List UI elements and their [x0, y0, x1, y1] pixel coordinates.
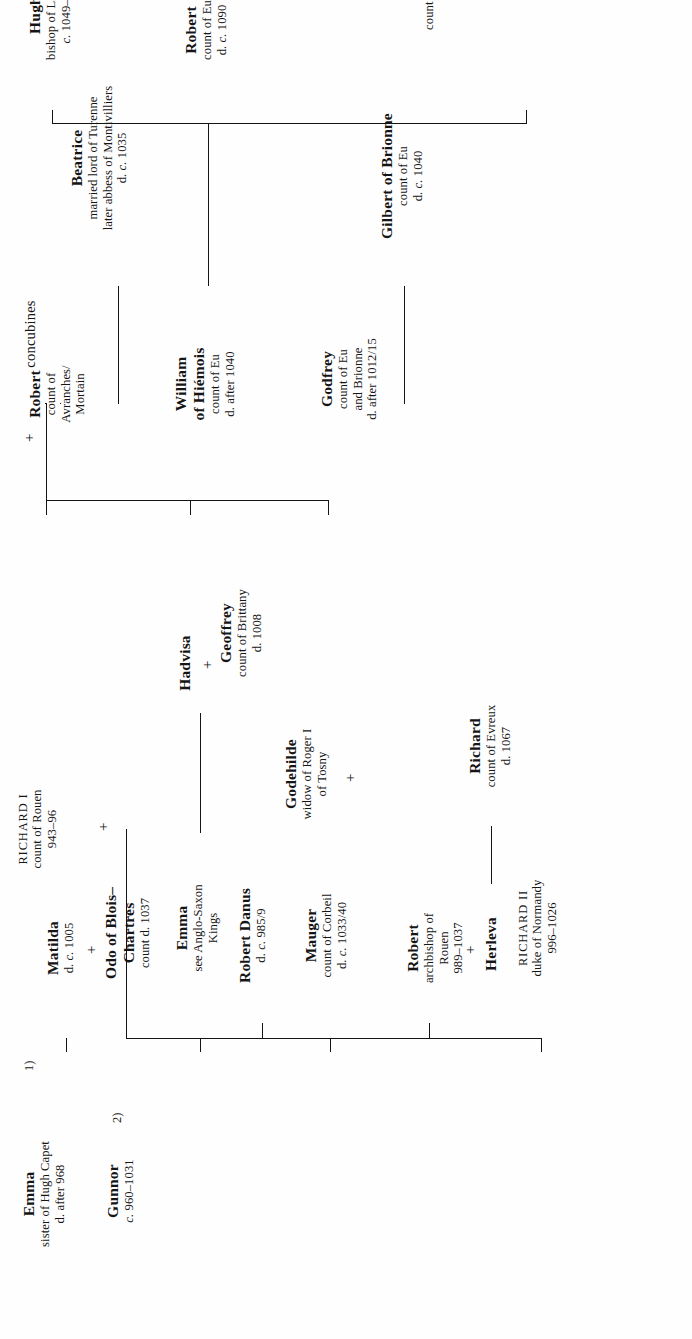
node-richard-ii: RICHARD II duke of Normandy 996–1026 [516, 833, 560, 1023]
node-detail-line: Rouen [437, 873, 452, 1023]
node-name: Robert [404, 873, 422, 1023]
node-detail-line: see Anglo-Saxon [191, 833, 206, 1023]
node-godfrey: Godfrey count of Eu and Brionne d. after… [318, 274, 380, 484]
node-name: Herleva [482, 889, 500, 999]
node-detail-line: married lord of Turenne [86, 30, 101, 286]
node-detail-line: c. 960–1031 [122, 1131, 137, 1251]
node-detail-line: d. after 1012/15 [365, 274, 380, 484]
node-detail-line: count of Eu [336, 274, 351, 484]
node-detail-line: d. c. 985/9 [254, 848, 269, 1023]
node-detail-line: Avranches/ [59, 304, 74, 484]
node-name: Emma [173, 833, 191, 1023]
connector-godfrey-gilbert [404, 286, 405, 404]
node-detail-line: sister of Hugh Capet [38, 1089, 53, 1299]
connector-child-stub-robert-danus [262, 1023, 263, 1039]
connector-beatrice [118, 286, 119, 404]
node-detail-line: d. after 968 [53, 1089, 68, 1299]
node-detail-line: count of Soissons [437, 0, 452, 110]
node-detail-line: count of [44, 304, 59, 484]
node-name: Gunnor [104, 1131, 122, 1251]
node-detail-line: count of Evreux [484, 666, 499, 826]
node-detail-line: count d. 1037 [138, 843, 153, 1023]
connector-child-stub-william-hiemois [190, 500, 191, 515]
connector-sibling-spine-william-issue [52, 123, 526, 124]
node-name-cont: of Hiémois [190, 284, 208, 484]
node-godehilde: Godehilde widow of Roger I of Tosny [282, 679, 329, 869]
union-marker-hadvisa-geoffrey: + [200, 661, 215, 669]
union-order-2: 2) [110, 1113, 125, 1123]
node-detail-line: Mortain [73, 304, 88, 484]
node-detail-line: c. 1057–c. 1076 [451, 0, 466, 110]
node-name: Gilbert of Brionne [378, 66, 396, 286]
connector-child-stub-emma [200, 1038, 201, 1052]
node-detail-line: d. 1067 [499, 666, 514, 826]
node-mauger: Mauger count of Corbeil d. c. 1033/40 [302, 848, 349, 1023]
node-richard-evreux: Richard count of Evreux d. 1067 [466, 666, 513, 826]
node-detail-line: d. c. 1035 [115, 30, 130, 286]
node-name: Robert [182, 0, 200, 110]
node-name: Godehilde [282, 679, 300, 869]
connector-child-stub-matilda [66, 1038, 67, 1052]
node-detail-line: d. c. 1005 [62, 873, 77, 1023]
connector-emma-row [200, 713, 201, 833]
node-detail-line: count of Corbeil [320, 848, 335, 1023]
rotated-chart-wrapper: Emma sister of Hugh Capet d. after 968 1… [0, 0, 692, 1339]
connector-child-stub-mauger [330, 1038, 331, 1052]
node-detail-line: d. c. 1090 [215, 0, 230, 110]
node-name: Emma [20, 1089, 38, 1299]
connector-child-stub-richard2 [541, 1038, 542, 1052]
node-detail-line: count of Eu [208, 284, 223, 484]
connector-child-stub-william-busac [526, 110, 527, 124]
node-detail-line: of Tosny [315, 679, 330, 869]
node-detail-line: d. after 1040 [223, 284, 238, 484]
node-name: William [172, 284, 190, 484]
node-detail-line: count of Eu [200, 0, 215, 110]
node-name: William Busac [404, 0, 422, 110]
union-marker-richard1-gunnor: + [96, 823, 111, 831]
node-gunnor: Gunnor c. 960–1031 [104, 1131, 137, 1251]
node-detail-line: d. c. 1033/40 [335, 848, 350, 1023]
node-name: Robert Danus [236, 848, 254, 1023]
node-detail-line: count of Rouen [30, 749, 45, 909]
connector-child-stub-hugh [52, 110, 53, 124]
node-herleva: Herleva [482, 889, 500, 999]
node-robert-avranches: Robert count of Avranches/ Mortain [26, 304, 88, 484]
node-hadvisa: Hadvisa [176, 613, 194, 713]
union-marker-godehilde: + [343, 774, 358, 782]
node-detail-line: archbishop of [422, 873, 437, 1023]
node-odo: Odo of Blois– Chartres count d. 1037 [102, 843, 153, 1023]
node-hugh: Hugh bishop of Lisieux c. 1049–77 [26, 0, 73, 110]
node-detail-line: d. 1008 [250, 553, 265, 713]
node-emma-anglosaxon: Emma see Anglo-Saxon Kings [173, 833, 220, 1023]
node-name: Hadvisa [176, 613, 194, 713]
union-marker-matilda-odo: + [84, 946, 99, 954]
node-name: Godfrey [318, 274, 336, 484]
node-name: Robert [26, 304, 44, 484]
node-detail-line: later abbess of Montivilliers [101, 30, 116, 286]
node-name: Odo of Blois– [102, 843, 120, 1023]
node-robert-archbishop: Robert archbishop of Rouen 989–1037 [404, 873, 466, 1023]
connector-herleva-richard-evreux [491, 826, 492, 884]
node-detail-line: bishop of Lisieux [44, 0, 59, 110]
node-name: Hugh [26, 0, 44, 110]
node-name: RICHARD II [516, 833, 530, 1023]
node-name: Matilda [44, 873, 62, 1023]
node-detail-line: Kings [206, 833, 221, 1023]
genealogy-chart: Emma sister of Hugh Capet d. after 968 1… [0, 0, 692, 1339]
node-beatrice: Beatrice married lord of Turenne later a… [68, 30, 130, 286]
node-robert-eu: Robert count of Eu d. c. 1090 [182, 0, 229, 110]
node-william-busac: William Busac count of Eu dispossessed c… [404, 0, 466, 110]
connector-drop-richard2 [541, 1038, 542, 1039]
node-name: Mauger [302, 848, 320, 1023]
node-name: Geoffrey [217, 553, 235, 713]
connector-sibling-spine-concubines [46, 500, 328, 501]
node-name-cont: Chartres [120, 843, 138, 1023]
node-matilda: Matilda d. c. 1005 [44, 873, 77, 1023]
node-geoffrey: Geoffrey count of Brittany d. 1008 [217, 553, 264, 713]
node-detail-line: c. 1049–77 [59, 0, 74, 110]
connector-child-stub-robert-abp [429, 1023, 430, 1039]
union-marker-robert-herleva: + [463, 946, 478, 954]
node-detail-line: 996–1026 [545, 833, 560, 1023]
connector-william-issue [208, 124, 209, 286]
union-order-1: 1) [22, 1061, 37, 1071]
